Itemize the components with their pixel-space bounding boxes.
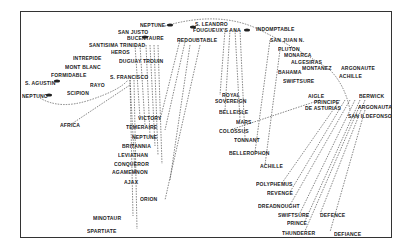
ship-label: SAN JUAN N. [270, 37, 304, 43]
ship-label: SCIPION [67, 90, 89, 96]
ship-label: S. FRANCISCO [110, 74, 148, 80]
ship-label: THUNDERER [282, 230, 315, 236]
ship-label: DEFENCE [320, 212, 345, 218]
ship-label: PRINCE [287, 220, 307, 226]
ship-label: SANTISIMA TRINIDAD [89, 42, 145, 48]
ship-label: DREADNOUGHT [258, 203, 300, 209]
ship-label: MARS [236, 119, 252, 125]
ship-label: MINOTAUR [93, 215, 121, 221]
ship-label: NEPTUNE [140, 22, 165, 28]
ship-label: SWIFTSURE [278, 212, 309, 218]
ship-label: BAHAMA [278, 69, 302, 75]
ship-label: SWIFTSURE [283, 78, 314, 84]
ship-label: DUGUAY TROUIN [119, 58, 163, 64]
ship-label: AGAMEMNON [112, 169, 148, 175]
ship-label: SOVEREIGN [215, 98, 247, 104]
ship-label: S. AGUSTIN [25, 80, 56, 86]
ship-label: BELLEISLE [219, 109, 248, 115]
ship-label: NEPTUNE [132, 134, 157, 140]
ship-label: REDOUBTABLE [177, 37, 217, 43]
ship-label: POLYPHEMUS [256, 181, 293, 187]
ship-label: REVENGE [267, 190, 293, 196]
ship-label: BERWICK [359, 93, 384, 99]
ship-label: LEVIATHAN [118, 152, 148, 158]
ship-label: COLOSSUS [219, 128, 249, 134]
ship-label: SAN ILDEFONSO [348, 113, 392, 119]
ship-label: FOUGUEUX'S ANA [193, 27, 241, 33]
ship-label: BUCENTAURE [127, 35, 164, 41]
ship-label: SPARTIATE [87, 228, 116, 234]
ship-label: INTREPIDE [73, 55, 102, 61]
ship-label: HEROS [111, 49, 130, 55]
ship-label: TEMERAIRE [126, 124, 157, 130]
ship-label: ARGONAUTA [358, 104, 392, 110]
ship-label: BELLEROPHON [229, 150, 270, 156]
ship-label: MONARCA [284, 52, 312, 58]
ship-label: AFRICA [60, 122, 80, 128]
ship-label: MONT BLANC [65, 64, 101, 70]
ship-label: FORMIDABLE [51, 72, 86, 78]
ship-label: AJAX [124, 179, 138, 185]
ship-label: INDOMPTABLE [256, 26, 295, 32]
ship-label: TONNANT [234, 137, 260, 143]
ship-label: CONQUEROR [114, 161, 149, 167]
ship-label: ACHILLE [339, 73, 362, 79]
ship-label: DE ASTURIAS [305, 105, 341, 111]
ship-label: ARGONAUTE [341, 65, 375, 71]
ship-label: DEFIANCE [334, 231, 361, 237]
ship-label: RAYO [90, 82, 105, 88]
ship-label: ACHILLE [260, 163, 283, 169]
ship-label: BRITANNIA [122, 143, 151, 149]
ship-label: VICTORY [138, 115, 161, 121]
ship-label: ORION [140, 196, 157, 202]
ship-label: NEPTUNO [22, 93, 48, 99]
ship-label: MONTANEZ [302, 65, 332, 71]
